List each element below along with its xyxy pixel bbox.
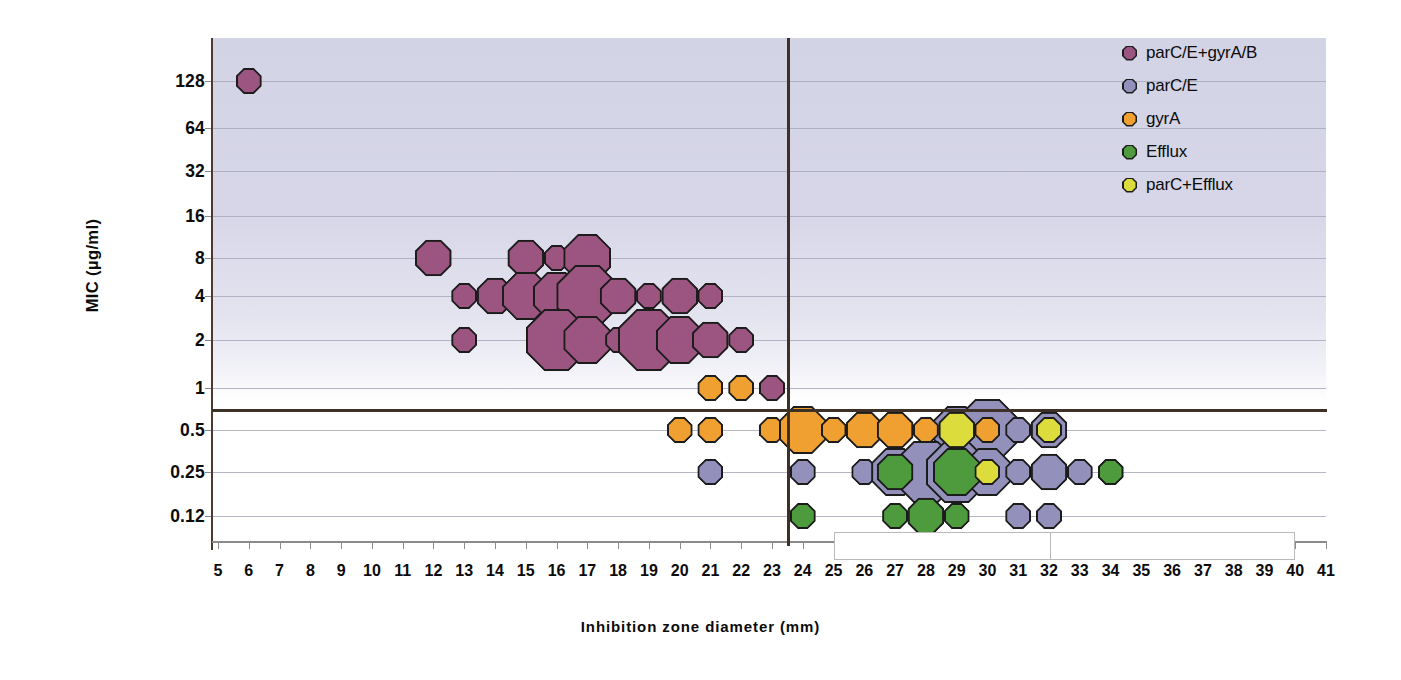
x-tick-label: 32 xyxy=(1040,562,1058,580)
x-tick-label: 18 xyxy=(609,562,627,580)
x-tick-label: 6 xyxy=(244,562,253,580)
x-tick-mark xyxy=(526,542,527,549)
y-tick-label: 0.12 xyxy=(170,506,205,527)
legend-item-3[interactable]: gyrA xyxy=(1122,106,1180,132)
x-tick-label: 22 xyxy=(732,562,750,580)
mic-breakpoint-line xyxy=(212,409,1327,412)
data-bubble xyxy=(1031,454,1068,491)
x-tick-label: 16 xyxy=(548,562,566,580)
data-bubble xyxy=(790,503,816,529)
x-tick-label: 24 xyxy=(794,562,812,580)
bubble-fill xyxy=(909,500,942,533)
bubble-fill xyxy=(663,280,696,313)
y-tick-label: 32 xyxy=(185,161,205,182)
legend-label: parC/E xyxy=(1146,76,1198,96)
x-tick-label: 36 xyxy=(1163,562,1181,580)
gridline xyxy=(212,340,1326,341)
x-tick-mark xyxy=(710,542,711,549)
data-bubble xyxy=(697,459,723,485)
bubble-fill xyxy=(602,280,635,313)
y-tick-label: 8 xyxy=(195,248,205,269)
data-bubble xyxy=(821,417,847,443)
x-tick-label: 14 xyxy=(486,562,504,580)
legend-marker-fill xyxy=(1124,113,1136,125)
x-tick-label: 23 xyxy=(763,562,781,580)
legend-marker-icon xyxy=(1122,178,1137,193)
bubble-fill xyxy=(417,242,450,275)
legend-marker-fill xyxy=(1124,146,1136,158)
data-bubble xyxy=(451,283,477,309)
x-tick-mark xyxy=(1326,542,1327,549)
data-bubble xyxy=(1005,503,1031,529)
x-tick-mark xyxy=(464,542,465,549)
x-tick-mark xyxy=(341,542,342,549)
data-bubble xyxy=(563,316,611,364)
gridline xyxy=(212,472,1326,473)
x-tick-mark xyxy=(249,542,250,549)
x-tick-mark xyxy=(403,542,404,549)
x-tick-label: 15 xyxy=(517,562,535,580)
x-tick-label: 29 xyxy=(948,562,966,580)
bubble-fill xyxy=(848,414,881,447)
data-bubble xyxy=(415,240,452,277)
gridline xyxy=(212,258,1326,259)
data-bubble xyxy=(1036,417,1062,443)
x-tick-label: 31 xyxy=(1009,562,1027,580)
data-bubble xyxy=(728,375,754,401)
legend-marker-icon xyxy=(1122,79,1137,94)
x-tick-label: 30 xyxy=(979,562,997,580)
x-tick-label: 5 xyxy=(214,562,223,580)
data-bubble xyxy=(451,327,477,353)
bubble-fill xyxy=(1100,461,1122,483)
bubble-fill xyxy=(1038,505,1060,527)
data-bubble xyxy=(636,283,662,309)
data-bubble xyxy=(1067,459,1093,485)
data-bubble xyxy=(882,503,908,529)
chart-canvas: 12864321684210.50.250.12 567891011121314… xyxy=(0,0,1401,680)
x-tick-label: 34 xyxy=(1102,562,1120,580)
data-bubble xyxy=(661,278,698,315)
data-bubble xyxy=(1005,459,1031,485)
y-axis-title: MIC (µg/ml) xyxy=(83,156,102,376)
x-tick-label: 41 xyxy=(1317,562,1335,580)
data-bubble xyxy=(944,503,970,529)
x-tick-mark xyxy=(680,542,681,549)
legend-label: gyrA xyxy=(1146,109,1180,129)
data-bubble xyxy=(907,498,944,535)
x-tick-mark xyxy=(280,542,281,549)
x-tick-mark xyxy=(618,542,619,549)
gridline xyxy=(212,216,1326,217)
bubble-fill xyxy=(940,414,973,447)
x-tick-label: 9 xyxy=(337,562,346,580)
data-bubble xyxy=(1098,459,1124,485)
x-tick-label: 8 xyxy=(306,562,315,580)
x-tick-mark xyxy=(741,542,742,549)
y-tick-label: 64 xyxy=(185,118,205,139)
zone-breakpoint-line xyxy=(787,38,790,546)
data-bubble xyxy=(779,406,827,454)
legend-label: parC+Efflux xyxy=(1146,175,1233,195)
y-tick-label: 1 xyxy=(195,378,205,399)
data-bubble xyxy=(1005,417,1031,443)
x-tick-label: 11 xyxy=(394,562,411,580)
legend-item-2[interactable]: parC/E xyxy=(1122,73,1198,99)
legend-item-4[interactable]: Efflux xyxy=(1122,139,1187,165)
bubble-fill xyxy=(879,414,912,447)
data-bubble xyxy=(507,240,544,277)
data-bubble xyxy=(236,68,262,94)
x-tick-label: 25 xyxy=(825,562,843,580)
data-bubble xyxy=(1036,503,1062,529)
legend-marker-fill xyxy=(1124,47,1136,59)
annotation-box-divider xyxy=(1050,533,1051,559)
legend-item-5[interactable]: parC+Efflux xyxy=(1122,172,1233,198)
legend-item-1[interactable]: parC/E+gyrA/B xyxy=(1122,40,1257,66)
x-tick-mark xyxy=(557,542,558,549)
x-tick-label: 20 xyxy=(671,562,689,580)
x-tick-label: 35 xyxy=(1132,562,1150,580)
x-tick-mark xyxy=(372,542,373,549)
legend-label: parC/E+gyrA/B xyxy=(1146,43,1257,63)
x-tick-label: 21 xyxy=(702,562,720,580)
legend: parC/E+gyrA/BparC/EgyrAEffluxparC+Efflux xyxy=(1122,40,1344,200)
data-bubble xyxy=(877,412,914,449)
legend-marker-fill xyxy=(1124,80,1136,92)
